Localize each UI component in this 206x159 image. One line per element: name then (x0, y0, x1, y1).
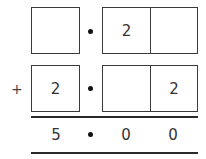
row2-ones-value: 2 (32, 66, 79, 111)
row1-tenths-value: 2 (122, 22, 132, 40)
result-tenths: 0 (121, 128, 131, 143)
row2-hundredths-box[interactable]: 2 (151, 66, 197, 111)
row1-decimal-point (88, 29, 93, 34)
row1-hundredths-box[interactable] (151, 8, 197, 53)
row2-decimal-boxes: 2 (102, 65, 198, 112)
result-ones: 5 (51, 128, 61, 143)
result-hundredths: 0 (168, 128, 178, 143)
row1-ones-value (32, 8, 79, 53)
row2-hundredths-value: 2 (169, 80, 179, 98)
sum-line (31, 116, 198, 118)
bottom-line (31, 152, 198, 154)
row1-decimal-boxes: 2 (102, 7, 198, 54)
plus-operator: + (11, 82, 23, 96)
row2-decimal-point (88, 86, 93, 91)
row1-tenths-box[interactable]: 2 (103, 8, 150, 53)
result-decimal-point (88, 132, 93, 137)
row2-tenths-box[interactable] (103, 66, 150, 111)
row1-ones-box[interactable] (31, 7, 80, 54)
row2-ones-box[interactable]: 2 (31, 65, 80, 112)
